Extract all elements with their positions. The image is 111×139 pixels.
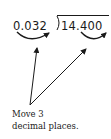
decimal-division-diagram: 0.032 14.400 Move 3 decimal places. [0, 0, 111, 139]
dividend-shift-arrow-icon [81, 32, 106, 39]
divisor-shift-arrow-icon [17, 32, 49, 39]
pointer-line-right-icon [30, 49, 86, 105]
caption-line-2: decimal places. [12, 120, 79, 132]
divisor-value: 0.032 [13, 20, 47, 32]
pointer-line-left-icon [30, 48, 37, 105]
dividend-value: 14.400 [61, 20, 102, 32]
caption-line-1: Move 3 [12, 108, 44, 120]
